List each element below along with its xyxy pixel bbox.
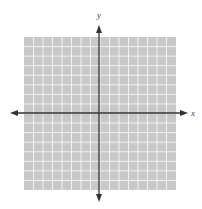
y-axis-label: y <box>96 10 101 20</box>
coordinate-plane: x y <box>0 0 202 209</box>
x-axis-label: x <box>190 108 195 118</box>
y-axis-arrow-down-icon <box>96 194 102 202</box>
y-axis-arrow-up-icon <box>96 25 102 33</box>
x-axis-arrow-right-icon <box>180 110 188 116</box>
x-axis-arrow-left-icon <box>10 110 18 116</box>
